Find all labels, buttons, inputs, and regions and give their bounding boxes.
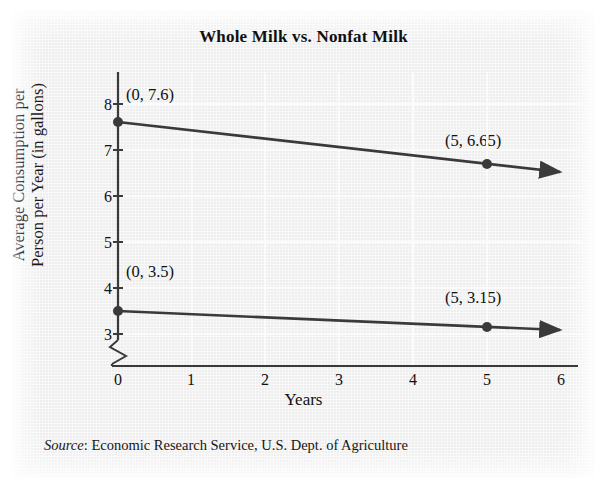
data-point-nonfat-milk-0: [113, 306, 123, 316]
plot-area: [0, 0, 607, 490]
data-point-whole-milk-0: [113, 117, 123, 127]
series-whole-milk: [113, 117, 560, 172]
source-note: Source: Economic Research Service, U.S. …: [44, 437, 408, 454]
data-point-whole-milk-5: [482, 159, 492, 169]
source-prefix: Source: [44, 437, 84, 453]
source-text: : Economic Research Service, U.S. Dept. …: [84, 437, 408, 453]
y-axis-break-icon: [110, 340, 126, 364]
series-nonfat-milk: [113, 306, 560, 332]
figure-container: Whole Milk vs. Nonfat Milk Average Consu…: [0, 0, 607, 490]
data-point-nonfat-milk-5: [482, 322, 492, 332]
